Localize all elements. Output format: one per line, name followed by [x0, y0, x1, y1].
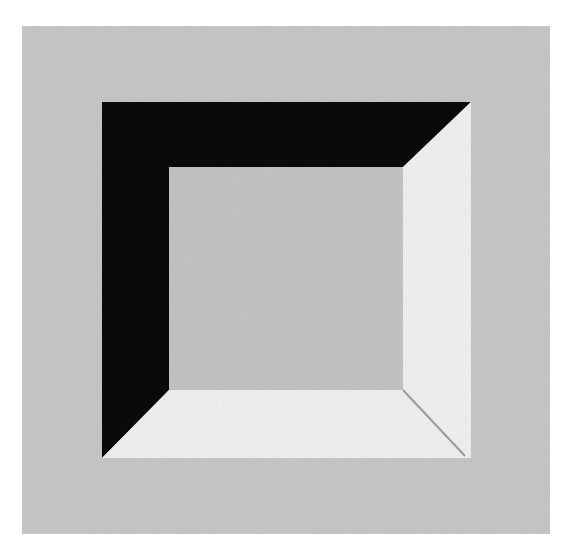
- painting-canvas: [22, 26, 550, 534]
- bevel-frame-artwork: [22, 26, 550, 534]
- inner-square: [169, 167, 403, 390]
